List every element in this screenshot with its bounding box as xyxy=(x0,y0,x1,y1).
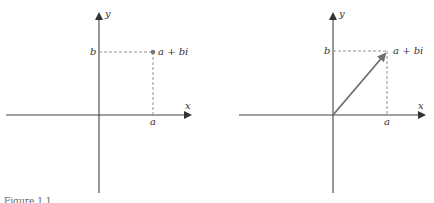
panel-point: y x b a a + bi xyxy=(6,8,191,193)
point-label: a + bi xyxy=(158,46,188,57)
complex-plane-figure: y x b a a + bi y x b a a + bi xyxy=(0,0,434,203)
x-axis-label: x xyxy=(418,100,424,111)
real-tick-label: a xyxy=(384,116,390,127)
y-axis-label: y xyxy=(104,8,111,19)
x-axis-label: x xyxy=(185,100,191,111)
real-tick-label: a xyxy=(150,116,156,127)
complex-point xyxy=(151,50,156,55)
imag-tick-label: b xyxy=(90,46,96,57)
figure-caption: Figure 1.1 xyxy=(4,196,51,203)
panel-vector: y x b a a + bi xyxy=(239,8,424,193)
point-label: a + bi xyxy=(393,45,423,56)
imag-tick-label: b xyxy=(324,45,330,56)
y-axis-label: y xyxy=(338,8,345,19)
position-vector-arrow xyxy=(333,54,385,115)
